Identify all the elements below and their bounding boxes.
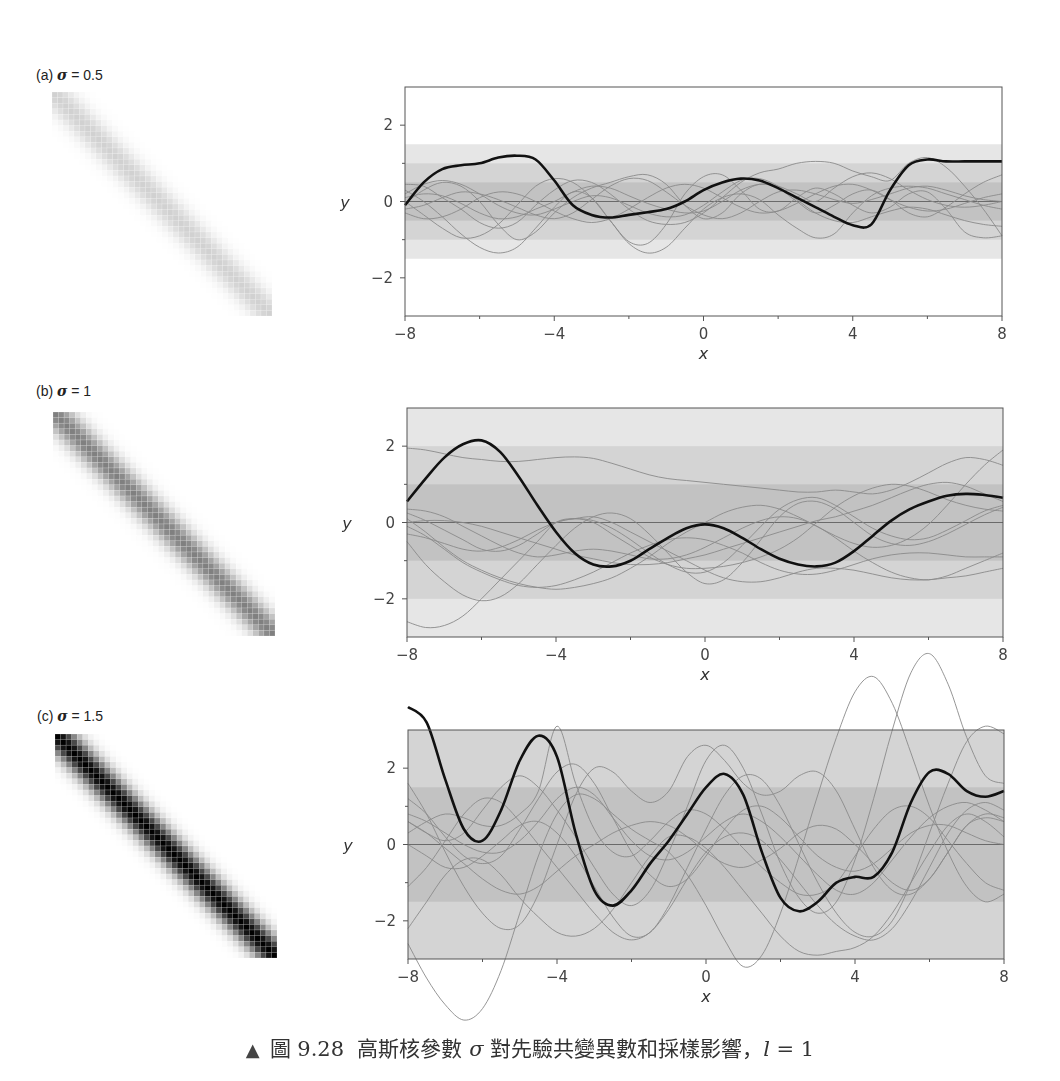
x-tick-label: −8 <box>397 968 419 986</box>
x-tick-label: −4 <box>545 646 567 664</box>
y-axis-label: y <box>341 514 352 533</box>
prior-sample-plots: −8−4048−202xy−8−4048−202xy−8−4048−202xy <box>0 0 1060 1030</box>
y-axis-label: y <box>339 193 350 212</box>
caption-param-eq: = 1 <box>770 1037 814 1061</box>
x-tick-label: −8 <box>394 325 416 343</box>
y-tick-label: 2 <box>385 437 395 455</box>
x-axis-label: x <box>698 344 709 363</box>
x-tick-label: 0 <box>699 325 709 343</box>
x-tick-label: 0 <box>701 968 711 986</box>
x-axis-label: x <box>700 987 711 1006</box>
caption-param-name: l <box>763 1037 770 1061</box>
x-tick-label: 8 <box>997 325 1007 343</box>
caption-triangle-icon: ▲ <box>246 1039 260 1060</box>
y-tick-label: 2 <box>386 759 396 777</box>
x-tick-label: −8 <box>396 646 418 664</box>
caption-number: 圖 9.28 <box>270 1037 344 1061</box>
caption-sigma-symbol: σ <box>469 1037 483 1061</box>
x-axis-label: x <box>699 665 710 684</box>
x-tick-label: 0 <box>700 646 710 664</box>
x-tick-label: −4 <box>543 325 565 343</box>
y-tick-label: 0 <box>385 514 395 532</box>
figure-caption: ▲圖 9.28 高斯核參數 σ 對先驗共變異數和採樣影響，l = 1 <box>0 1032 1060 1062</box>
y-tick-label: 0 <box>383 193 393 211</box>
x-tick-label: −4 <box>546 968 568 986</box>
line-plot-a: −8−4048−202xy <box>339 87 1007 363</box>
x-tick-label: 8 <box>998 646 1008 664</box>
line-plot-b: −8−4048−202xy <box>341 408 1008 684</box>
y-tick-label: −2 <box>371 269 393 287</box>
x-tick-label: 4 <box>850 968 860 986</box>
y-axis-label: y <box>342 836 353 855</box>
y-tick-label: 0 <box>386 836 396 854</box>
caption-text-after: 對先驗共變異數和採樣影響， <box>490 1037 763 1061</box>
y-tick-label: −2 <box>374 912 396 930</box>
line-plot-c: −8−4048−202xy <box>342 653 1009 1020</box>
caption-text-before: 高斯核參數 <box>357 1037 462 1061</box>
x-tick-label: 4 <box>848 325 858 343</box>
y-tick-label: −2 <box>373 590 395 608</box>
x-tick-label: 8 <box>999 968 1009 986</box>
x-tick-label: 4 <box>849 646 859 664</box>
y-tick-label: 2 <box>383 116 393 134</box>
